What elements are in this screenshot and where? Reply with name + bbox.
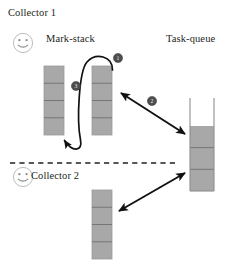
label-collector-1: Collector 1: [8, 8, 56, 19]
step-marker-3: 3: [71, 81, 80, 90]
step-marker-1: 1: [113, 53, 122, 62]
label-collector-2: Collector 2: [31, 171, 79, 182]
diagram-canvas: 1 3 2 Collector 1 Mark-stack Task-queue …: [0, 0, 229, 270]
task-queue-container: [190, 98, 214, 191]
step-marker-3-text: 3: [75, 83, 78, 89]
mark-stack-c2: [92, 190, 112, 259]
step-marker-2: 2: [147, 96, 156, 105]
label-task-queue: Task-queue: [166, 34, 215, 45]
arrow-c2-taskqueue: [119, 173, 185, 211]
label-mark-stack: Mark-stack: [46, 34, 95, 45]
face-collector1-icon: [13, 33, 32, 52]
mark-stack-c1-right: [92, 66, 112, 135]
face-collector2-icon: [13, 167, 32, 186]
step-marker-1-text: 1: [117, 55, 120, 61]
mark-stack-c1-left: [44, 66, 64, 135]
step-marker-2-text: 2: [151, 98, 154, 104]
